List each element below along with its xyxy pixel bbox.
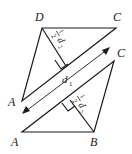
label-half-d2-upper: 1 2 d 2 (49, 27, 72, 50)
right-angle-marker-upper (55, 60, 68, 69)
label-lower-c: C (117, 46, 126, 60)
label-upper-a: A (7, 95, 16, 109)
svg-text:1: 1 (69, 80, 73, 88)
label-lower-b: B (90, 135, 98, 149)
arrowhead-up-icon (102, 47, 110, 55)
label-lower-a: A (10, 135, 19, 149)
label-half-d2-lower: 1 2 d 2 (70, 92, 93, 115)
label-d1: d 1 (62, 73, 73, 88)
arrowhead-down-icon (22, 106, 30, 114)
label-upper-d: D (34, 10, 44, 24)
label-upper-c: C (113, 10, 122, 24)
svg-text:d: d (62, 73, 68, 85)
rhombus-diagram: D C C A A B d 1 1 2 d 2 1 2 d 2 (0, 0, 132, 154)
lower-triangle (22, 61, 114, 132)
upper-triangle (22, 28, 116, 101)
triangle-adc (22, 28, 116, 101)
triangle-abc (22, 61, 114, 132)
